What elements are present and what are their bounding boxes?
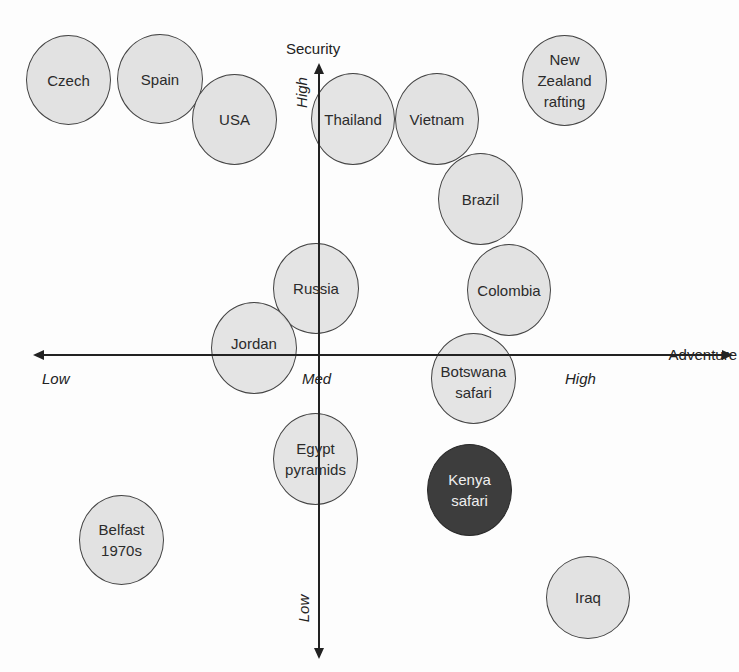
x-axis-title: Adventure [669,346,737,363]
y-axis-line [318,72,320,650]
x-axis-line [38,354,724,356]
x-tick-high: High [565,370,596,387]
bubble-egypt-pyramids: Egypt pyramids [273,413,358,505]
bubble-belfast-1970s: Belfast 1970s [79,495,164,585]
y-axis-arrow-up-icon [314,63,324,74]
y-tick-low: Low [295,595,312,623]
x-tick-med: Med [302,370,331,387]
bubble-iraq: Iraq [546,556,630,639]
bubble-vietnam: Vietnam [395,73,479,165]
bubble-jordan: Jordan [211,302,297,394]
x-tick-low: Low [42,370,70,387]
x-axis-arrow-left-icon [33,350,44,360]
bubble-botswana-safari: Botswana safari [431,333,516,424]
y-tick-high: High [293,77,310,108]
bubble-kenya-safari: Kenya safari [427,444,512,536]
bubble-new-zealand-rafting: New Zealand rafting [522,35,607,126]
y-axis-title: Security [286,40,340,57]
bubble-brazil: Brazil [438,153,523,245]
bubble-colombia: Colombia [467,244,551,336]
positioning-map: Adventure Security Low Med High High Low… [0,0,739,672]
bubble-spain: Spain [117,34,203,124]
bubble-usa: USA [192,74,277,165]
bubble-thailand: Thailand [311,73,395,165]
y-axis-arrow-down-icon [314,648,324,659]
bubble-czech: Czech [26,35,111,125]
